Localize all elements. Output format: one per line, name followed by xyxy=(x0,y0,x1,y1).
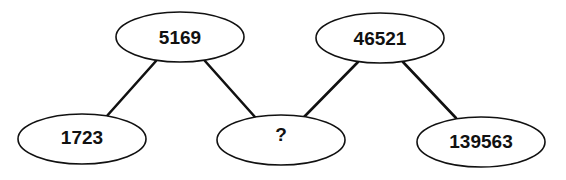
edge-46521-question xyxy=(304,62,358,117)
edge-5169-question xyxy=(205,61,255,117)
node-bottom-middle: ? xyxy=(217,115,345,165)
node-bottom-right: 139563 xyxy=(417,117,545,167)
node-label: 46521 xyxy=(354,28,407,49)
node-label: 139563 xyxy=(449,131,512,152)
number-tree-diagram: 5169 46521 1723 ? 139563 xyxy=(0,0,566,180)
edge-46521-139563 xyxy=(403,62,456,118)
node-bottom-left: 1723 xyxy=(18,114,146,164)
node-top-left: 5169 xyxy=(116,12,244,62)
node-label: 5169 xyxy=(159,27,201,48)
node-top-right: 46521 xyxy=(316,13,444,63)
node-label: 1723 xyxy=(61,127,103,148)
unknown-value-label: ? xyxy=(275,124,287,145)
edge-5169-1723 xyxy=(106,61,156,117)
